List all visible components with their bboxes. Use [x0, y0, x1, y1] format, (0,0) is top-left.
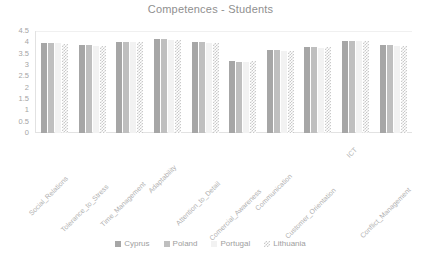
bar	[116, 42, 122, 133]
bar	[229, 61, 235, 133]
y-axis-tick-label: 0	[25, 129, 29, 137]
chart-title: Competences - Students	[0, 3, 421, 15]
x-axis-label-slot: Customer_Orientation	[299, 136, 337, 206]
bar	[130, 42, 136, 133]
bar-group	[224, 31, 262, 133]
legend-item[interactable]: Cyprus	[115, 239, 149, 248]
bar	[199, 42, 205, 133]
x-axis-label-slot: Social_Relations	[36, 136, 74, 206]
x-axis-tick-label: Conflict_Management	[407, 138, 421, 192]
bar-group	[74, 31, 112, 133]
bar	[48, 43, 54, 133]
x-axis-labels: Social_RelationsTolerance_to_StressTime_…	[36, 136, 412, 206]
bar	[311, 47, 317, 133]
bar-group	[149, 31, 187, 133]
legend-label: Lithuania	[273, 239, 305, 248]
x-axis-label-slot: Time_Management	[111, 136, 149, 206]
bar	[86, 45, 92, 133]
x-axis-label-slot: Tolerance_to_Stress	[74, 136, 112, 206]
bar	[213, 43, 219, 133]
bar	[394, 46, 400, 133]
legend-swatch-icon	[264, 241, 270, 247]
y-axis-tick-label: 2	[25, 84, 29, 92]
y-axis-tick-label: 3	[25, 61, 29, 69]
y-axis-tick-label: 0.5	[19, 118, 29, 126]
bar	[325, 47, 331, 133]
bar	[192, 42, 198, 133]
bar	[401, 46, 407, 133]
bar	[288, 51, 294, 133]
bar	[79, 45, 85, 133]
bar	[62, 44, 68, 133]
y-axis-tick-label: 1.5	[19, 95, 29, 103]
y-axis-tick-label: 1	[25, 106, 29, 114]
bar	[281, 51, 287, 133]
x-axis-label-slot: Comercial_Awareness	[224, 136, 262, 206]
y-axis-tick-label: 3.5	[19, 50, 29, 58]
bar	[161, 39, 167, 133]
legend-item[interactable]: Poland	[164, 239, 198, 248]
bar	[349, 41, 355, 133]
x-axis-label-slot: Attention_to_Detail	[186, 136, 224, 206]
plot-area	[36, 31, 412, 133]
x-axis-label-slot: ICT	[337, 136, 375, 206]
y-axis-tick-label: 4.5	[19, 27, 29, 35]
bar	[387, 45, 393, 133]
bar-group	[337, 31, 375, 133]
bar-group	[36, 31, 74, 133]
bar	[380, 45, 386, 133]
legend-label: Cyprus	[124, 239, 149, 248]
bar-group	[111, 31, 149, 133]
chart-container: Competences - Students 4.543.532.521.510…	[0, 0, 421, 257]
y-axis-tick-label: 2.5	[19, 72, 29, 80]
bar	[250, 61, 256, 133]
bar	[318, 48, 324, 133]
legend-swatch-icon	[211, 241, 217, 247]
y-axis-labels: 4.543.532.521.510.50	[0, 25, 32, 139]
gridline	[36, 31, 412, 32]
bar	[356, 41, 362, 133]
bar	[154, 39, 160, 133]
bar	[100, 46, 106, 133]
legend-item[interactable]: Portugal	[211, 239, 250, 248]
bar	[137, 42, 143, 133]
x-axis-tick-label: ICT	[353, 138, 367, 152]
bar	[123, 42, 129, 133]
bar	[274, 50, 280, 133]
bar	[168, 40, 174, 133]
bar-group	[374, 31, 412, 133]
bar-group	[299, 31, 337, 133]
bar	[55, 43, 61, 133]
x-axis-label-slot: Communication	[262, 136, 300, 206]
chart-legend: CyprusPolandPortugalLithuania	[0, 239, 421, 248]
legend-label: Poland	[173, 239, 198, 248]
bar	[41, 43, 47, 133]
legend-swatch-icon	[164, 241, 170, 247]
bar	[342, 41, 348, 133]
bar-group	[186, 31, 224, 133]
bar	[93, 46, 99, 133]
bar	[363, 41, 369, 133]
y-axis-tick-label: 4	[25, 38, 29, 46]
bar	[267, 50, 273, 133]
bar-group	[262, 31, 300, 133]
legend-label: Portugal	[220, 239, 250, 248]
legend-item[interactable]: Lithuania	[264, 239, 305, 248]
bar	[236, 62, 242, 133]
x-axis-label-slot: Adaptability	[149, 136, 187, 206]
bar	[206, 43, 212, 133]
x-axis-label-slot: Conflict_Management	[374, 136, 412, 206]
bar	[175, 40, 181, 133]
bar	[243, 62, 249, 133]
bar-groups	[36, 31, 412, 133]
bar	[304, 47, 310, 133]
legend-swatch-icon	[115, 241, 121, 247]
